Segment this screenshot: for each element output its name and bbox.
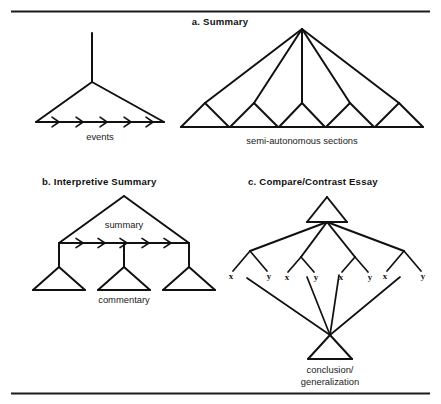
- a-right-section-4: [326, 103, 374, 127]
- c-v4-right: [404, 251, 421, 271]
- a-right-ray-2: [254, 29, 302, 103]
- panel-b-title: b. Interpretive Summary: [42, 176, 157, 187]
- a-right-ray-5: [302, 29, 399, 103]
- a-right-envelope-right: [399, 103, 423, 127]
- c-conclusion-leg-right: [330, 335, 352, 359]
- diagram-a-left: events: [36, 33, 164, 142]
- figure-container: a. Summary events: [0, 0, 441, 404]
- panel-a-title: a. Summary: [192, 16, 249, 27]
- diagram-b: summary commentary: [33, 196, 215, 305]
- c-v4-left: [387, 251, 404, 271]
- c-converge-1: [247, 278, 330, 335]
- b-c2-leg-right: [124, 267, 150, 290]
- figure-svg: a. Summary events: [0, 0, 441, 404]
- c-converge-3: [330, 275, 339, 335]
- a-right-section-1: [181, 103, 229, 127]
- a-left-label: events: [86, 131, 114, 142]
- section-3-leg-right: [302, 103, 325, 127]
- c-leaf-x-2: x: [285, 272, 290, 282]
- b-commentary-label: commentary: [98, 294, 150, 305]
- a-right-ray-4: [302, 29, 350, 103]
- a-right-label: semi-autonomous sections: [246, 135, 358, 146]
- c-leaf-x-1: x: [229, 271, 234, 281]
- c-conclusion-label-line1: conclusion/: [307, 364, 354, 375]
- a-right-envelope-left: [181, 103, 205, 127]
- b-commentary-2: [98, 267, 150, 290]
- c-top-leg-right: [327, 197, 347, 222]
- a-left-leg-left: [36, 82, 92, 122]
- b-c1-leg-right: [59, 267, 85, 290]
- panel-c-title: c. Compare/Contrast Essay: [248, 176, 378, 187]
- diagram-c: x y x y x y x y: [229, 197, 426, 387]
- c-vnode-3: x y: [339, 257, 373, 282]
- c-conclusion-leg-left: [308, 335, 330, 359]
- c-leaf-y-1: y: [267, 271, 272, 281]
- a-left-leg-right: [92, 82, 164, 122]
- section-4-leg-left: [326, 103, 350, 127]
- c-leaf-y-3: y: [368, 272, 373, 282]
- section-2-leg-left: [230, 103, 254, 127]
- a-right-section-3: [279, 103, 325, 127]
- c-v3-left: [342, 257, 355, 272]
- c-v1-right: [250, 251, 267, 271]
- a-right-ray-1: [205, 29, 302, 103]
- c-v1-left: [233, 251, 250, 271]
- c-v3-right: [355, 257, 368, 272]
- c-converge-4: [330, 277, 400, 335]
- c-leaf-y-2: y: [314, 272, 319, 282]
- section-4-leg-right: [350, 103, 374, 127]
- section-1-leg-right: [205, 103, 229, 127]
- section-5-leg-left: [375, 103, 399, 127]
- c-v2-left: [288, 257, 301, 272]
- a-right-section-2: [230, 103, 278, 127]
- b-c3-leg-left: [163, 267, 189, 290]
- b-c2-leg-left: [98, 267, 124, 290]
- c-leaf-y-4: y: [421, 271, 426, 281]
- c-vnode-1: x y: [229, 251, 272, 281]
- c-vnode-4: x y: [383, 251, 426, 281]
- section-3-leg-left: [279, 103, 302, 127]
- a-right-section-5: [375, 103, 423, 127]
- b-commentary-1: [33, 267, 85, 290]
- b-c3-leg-right: [189, 267, 215, 290]
- b-commentary-3: [163, 267, 215, 290]
- c-leaf-x-4: x: [383, 271, 388, 281]
- b-c1-leg-left: [33, 267, 59, 290]
- c-v2-right: [301, 257, 314, 272]
- b-summary-label: summary: [105, 219, 144, 230]
- c-top-leg-left: [307, 197, 327, 222]
- c-conclusion-label-line2: generalization: [301, 376, 359, 387]
- section-2-leg-right: [254, 103, 278, 127]
- diagram-a-right: semi-autonomous sections: [181, 29, 423, 146]
- c-vnode-2: x y: [285, 257, 319, 282]
